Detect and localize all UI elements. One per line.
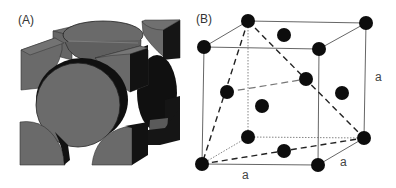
dimension-label-width: a (242, 168, 249, 182)
corner-atom-back-bottom-right (357, 131, 371, 145)
corner-atom-front-bottom-right (311, 158, 325, 172)
face-atom-back (255, 99, 269, 113)
dimension-label-height: a (375, 70, 382, 84)
plane-line (227, 79, 306, 92)
fcc-space-filling-diagram (0, 0, 190, 188)
corner-atom-front-top-right (312, 42, 326, 56)
corner-atom-back-top-right (359, 16, 373, 30)
corner-atom-back-bottom-left (241, 130, 255, 144)
corner-atom-front-top-left (197, 40, 211, 54)
fcc-lattice-diagram (190, 0, 396, 188)
panel-b-label: (B) (196, 12, 212, 26)
panel-a-label: (A) (18, 13, 34, 27)
face-atom-top (277, 28, 291, 42)
face-atom-front-upper (299, 72, 313, 86)
dimension-label-depth: a (340, 155, 347, 169)
panel-a-space-filling-model: (A) (0, 0, 190, 188)
corner-atom-back-top-left (241, 14, 255, 28)
corner-atom-front-bottom-left (195, 157, 209, 171)
face-atom-left (220, 85, 234, 99)
face-atom-bottom (277, 144, 291, 158)
face-atom-right (335, 86, 349, 100)
panel-b-ball-and-stick-model: (B) a a a (190, 0, 396, 188)
